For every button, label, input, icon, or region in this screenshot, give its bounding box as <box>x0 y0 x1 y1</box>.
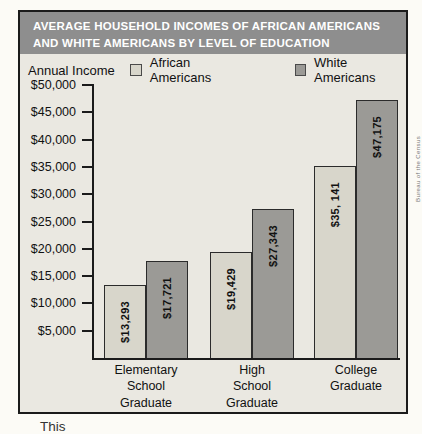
cropped-bottom-text: This <box>40 419 66 434</box>
legend: Annual Income African Americans White Am… <box>20 57 406 83</box>
chart-title: AVERAGE HOUSEHOLD INCOMES OF AFRICAN AME… <box>20 12 406 54</box>
x-category-label-2: CollegeGraduate <box>301 362 411 395</box>
y-axis-tick <box>82 275 94 277</box>
y-axis-tick <box>82 139 94 141</box>
y-axis-tick <box>82 302 94 304</box>
legend-swatch-african-americans <box>130 64 141 76</box>
y-axis-tick-label: $50,000 <box>28 78 76 92</box>
bar-white-americans-1: $27,343 <box>252 209 294 358</box>
bar-african-americans-1: $19,429 <box>210 252 252 358</box>
bar-white-americans-2: $47,175 <box>356 100 398 358</box>
legend-swatch-white-americans <box>295 64 306 76</box>
x-category-label-1: HighSchoolGraduate <box>197 362 307 411</box>
y-axis-tick-label: $30,000 <box>28 187 76 201</box>
plot-area: $50,000$45,000$40,000$35,000$30,000$25,0… <box>92 85 400 360</box>
y-axis-tick-label: $20,000 <box>28 242 76 256</box>
y-axis-tick-label: $15,000 <box>28 269 76 283</box>
source-caption: Bureau of the Census <box>415 2 421 202</box>
bar-value-label: $27,343 <box>267 225 279 267</box>
chart-title-line2: AND WHITE AMERICANS BY LEVEL OF EDUCATIO… <box>33 35 396 52</box>
y-axis-tick <box>82 84 94 86</box>
legend-label-white-americans: White Americans <box>314 55 406 85</box>
bar-value-label: $19,429 <box>225 268 237 310</box>
y-axis-tick-label: $5,000 <box>28 324 76 338</box>
chart-frame: AVERAGE HOUSEHOLD INCOMES OF AFRICAN AME… <box>18 10 408 414</box>
y-axis-tick <box>82 111 94 113</box>
y-axis-tick <box>82 248 94 250</box>
bar-african-americans-0: $13,293 <box>104 285 146 358</box>
y-axis-tick-label: $40,000 <box>28 133 76 147</box>
bar-african-americans-2: $35, 141 <box>314 166 356 358</box>
legend-label-african-americans: African Americans <box>150 55 249 85</box>
y-axis-tick-label: $10,000 <box>28 296 76 310</box>
y-axis-tick-label: $25,000 <box>28 215 76 229</box>
legend-item-white-americans: White Americans <box>295 55 406 85</box>
x-category-label-0: ElementarySchoolGraduate <box>91 362 201 411</box>
y-axis-tick <box>82 166 94 168</box>
bar-white-americans-0: $17,721 <box>146 261 188 358</box>
y-axis-tick <box>82 221 94 223</box>
legend-item-african-americans: African Americans <box>130 55 248 85</box>
bar-value-label: $47,175 <box>371 116 383 158</box>
bar-value-label: $35, 141 <box>329 182 341 227</box>
bar-value-label: $17,721 <box>161 277 173 319</box>
y-axis-title: Annual Income <box>28 63 130 78</box>
chart-title-line1: AVERAGE HOUSEHOLD INCOMES OF AFRICAN AME… <box>33 18 396 35</box>
y-axis-tick-label: $35,000 <box>28 160 76 174</box>
y-axis-tick <box>82 193 94 195</box>
bar-value-label: $13,293 <box>119 301 131 343</box>
y-axis-tick <box>82 330 94 332</box>
y-axis-tick-label: $45,000 <box>28 105 76 119</box>
